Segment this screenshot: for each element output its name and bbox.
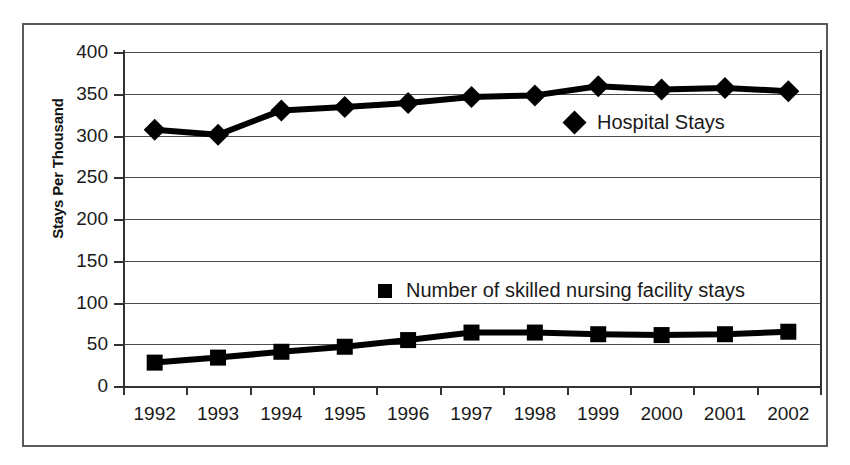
y-axis-tick-label: 300 [46, 126, 108, 145]
diamond-marker-icon [562, 110, 586, 134]
y-axis-tick [114, 136, 123, 138]
gridline [123, 177, 820, 178]
y-axis-tick [114, 177, 123, 179]
legend-item-hospital-stays: Hospital Stays [566, 111, 725, 134]
y-axis-tick [114, 94, 123, 96]
square-marker-icon [378, 284, 392, 298]
gridline [123, 261, 820, 262]
x-axis-line [122, 386, 821, 388]
x-axis-tick-label: 1999 [563, 404, 633, 423]
x-axis-tick-label: 1998 [500, 404, 570, 423]
plot-area [123, 52, 820, 386]
legend-item-snf-stays: Number of skilled nursing facility stays [378, 279, 745, 302]
x-axis-tick-label: 1995 [310, 404, 380, 423]
y-axis-tick-label: 0 [46, 376, 108, 395]
x-axis-tick [376, 386, 378, 395]
x-axis-tick [630, 386, 632, 395]
y-axis-tick-label: 250 [46, 167, 108, 186]
y-axis-tick-label: 150 [46, 251, 108, 270]
legend-label-snf-stays: Number of skilled nursing facility stays [406, 279, 745, 302]
x-axis-tick-label: 1996 [373, 404, 443, 423]
x-axis-tick [313, 386, 315, 395]
x-axis-tick-label: 1993 [183, 404, 253, 423]
x-axis-tick-label: 1997 [437, 404, 507, 423]
x-axis-tick [757, 386, 759, 395]
gridline [123, 303, 820, 304]
y-axis-tick-label: 100 [46, 293, 108, 312]
gridline [123, 94, 820, 95]
x-axis-tick [250, 386, 252, 395]
y-axis-tick [114, 344, 123, 346]
gridline [123, 136, 820, 137]
x-axis-tick-label: 2000 [627, 404, 697, 423]
y-axis-tick-label: 400 [46, 42, 108, 61]
x-axis-tick [440, 386, 442, 395]
x-axis-tick-label: 2001 [690, 404, 760, 423]
x-axis-tick [820, 386, 822, 395]
x-axis-tick [123, 386, 125, 395]
x-axis-tick-label: 1992 [120, 404, 190, 423]
x-axis-tick [693, 386, 695, 395]
x-axis-tick [503, 386, 505, 395]
legend-label-hospital-stays: Hospital Stays [597, 111, 725, 134]
y-axis-tick-label: 350 [46, 84, 108, 103]
gridline [123, 219, 820, 220]
y-axis-tick [114, 303, 123, 305]
gridline [123, 344, 820, 345]
y-axis-tick-label: 50 [46, 334, 108, 353]
plot-right-edge [820, 50, 822, 388]
x-axis-tick [567, 386, 569, 395]
y-axis-tick [114, 52, 123, 54]
x-axis-tick-label: 2002 [753, 404, 823, 423]
x-axis-tick-label: 1994 [246, 404, 316, 423]
gridline [123, 52, 820, 53]
y-axis-tick-label: 200 [46, 209, 108, 228]
x-axis-tick [186, 386, 188, 395]
y-axis-line [123, 50, 125, 388]
chart-figure: Stays Per Thousand 050100150200250300350… [0, 0, 850, 465]
y-axis-tick [114, 219, 123, 221]
y-axis-tick [114, 261, 123, 263]
